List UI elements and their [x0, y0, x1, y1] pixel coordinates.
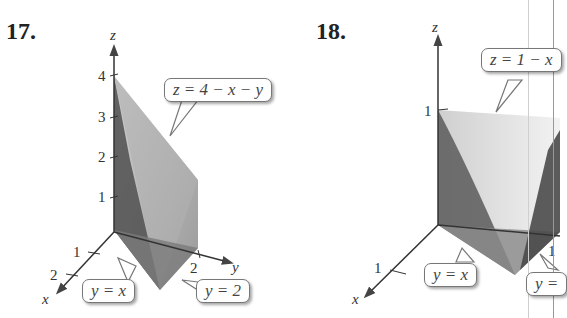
callout-y-eq-x-17: y = x — [82, 279, 135, 303]
x-tick-2: 2 — [50, 267, 58, 283]
x-axis-label-17: x — [41, 291, 49, 307]
figure-18-solid — [438, 110, 560, 275]
z-tick-4: 4 — [98, 68, 106, 84]
x-tick-1: 1 — [73, 244, 81, 260]
y-tick-1-18: 1 — [548, 243, 556, 259]
callout-y-eq-18: y = — [526, 272, 567, 296]
z-tick-2: 2 — [98, 149, 106, 165]
callout-y-eq-x-18: y = x — [424, 263, 477, 287]
z-tick-1: 1 — [98, 189, 106, 205]
z-axis-label-17: z — [109, 27, 116, 43]
z-axis-label-18: z — [431, 19, 438, 35]
callout-plane-17: z = 4 − x − y — [164, 78, 272, 102]
x-axis-label-18: x — [351, 291, 359, 307]
x-tick-1-18: 1 — [374, 260, 382, 276]
callout-y-eq-2-17: y = 2 — [196, 279, 250, 303]
callout-plane-18: z = 1 − x — [481, 48, 562, 72]
z-tick-1-18: 1 — [424, 103, 432, 119]
y-axis-label-17: y — [230, 259, 239, 275]
y-tick-2: 2 — [190, 260, 198, 276]
z-tick-3: 3 — [98, 109, 106, 125]
